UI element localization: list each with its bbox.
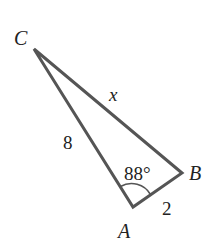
angle-label-a: 88° — [124, 163, 151, 184]
vertex-label-c: C — [14, 27, 28, 49]
side-label-cb: x — [108, 84, 118, 105]
side-label-ca: 8 — [63, 132, 73, 153]
vertex-label-a: A — [116, 220, 131, 242]
vertex-label-b: B — [189, 162, 201, 184]
triangle-cab — [34, 49, 182, 207]
triangle-diagram: C A B 8 2 x 88° — [0, 0, 220, 250]
side-label-ab: 2 — [162, 198, 172, 219]
